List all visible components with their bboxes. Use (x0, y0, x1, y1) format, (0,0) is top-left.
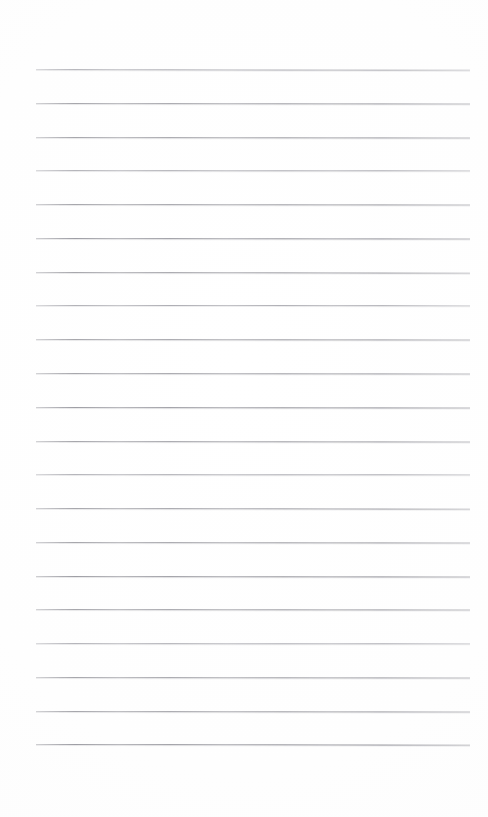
ruled-line (36, 576, 470, 577)
ruled-line (36, 339, 470, 340)
ruled-line (36, 103, 470, 104)
ruled-line (36, 677, 470, 679)
ruled-line (36, 170, 470, 171)
ruled-line (36, 204, 470, 206)
ruled-line (36, 542, 470, 543)
ruled-line (36, 407, 470, 408)
ruled-line (36, 373, 470, 375)
ruled-line (36, 474, 470, 475)
ruled-lines-group (0, 0, 488, 817)
ruled-line (36, 69, 470, 71)
ruled-line (36, 643, 470, 644)
ruled-line (36, 609, 470, 611)
ruled-line (36, 272, 470, 274)
ruled-line (36, 238, 470, 239)
scanned-page (0, 0, 488, 817)
ruled-line (36, 744, 470, 746)
ruled-line (36, 137, 470, 139)
ruled-line (36, 711, 470, 712)
ruled-line (36, 305, 470, 306)
ruled-line (36, 508, 470, 510)
ruled-line (36, 441, 470, 443)
